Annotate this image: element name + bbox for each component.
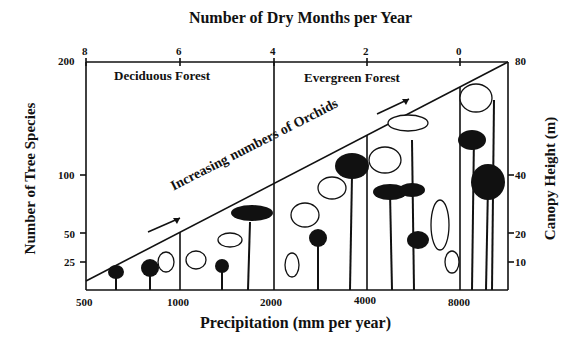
- diagram-graphic: [0, 0, 581, 344]
